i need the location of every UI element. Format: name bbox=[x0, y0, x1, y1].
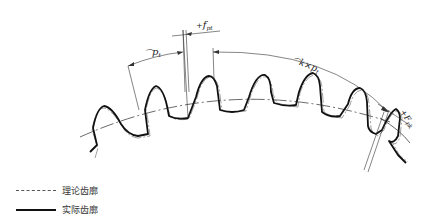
fpt-label: +fpt bbox=[196, 19, 213, 32]
kpt-label: ⌒k×pt bbox=[291, 55, 322, 76]
fpk-arrow bbox=[383, 107, 389, 112]
kpt-extension-left bbox=[213, 48, 214, 80]
actual-line-swatch bbox=[16, 209, 56, 211]
pt-extension-left bbox=[128, 66, 139, 110]
actual-tooth-profile bbox=[90, 73, 406, 163]
fpt-arrow bbox=[186, 32, 192, 36]
pt-arrow-right bbox=[177, 51, 183, 55]
legend-item-theoretical: 理论齿廓 bbox=[16, 184, 98, 197]
fpk-extension-right bbox=[368, 110, 389, 172]
fpt-extension-right bbox=[186, 30, 189, 92]
kpt-arrow-left bbox=[213, 50, 219, 54]
fpt-dimension-line bbox=[172, 31, 220, 36]
pt-label: ⌒pt bbox=[145, 46, 161, 58]
legend-item-actual: 实际齿廓 bbox=[16, 203, 98, 216]
theoretical-line-swatch bbox=[16, 190, 56, 191]
legend-label-theoretical: 理论齿廓 bbox=[62, 184, 98, 197]
legend-label-actual: 实际齿廓 bbox=[62, 203, 98, 216]
